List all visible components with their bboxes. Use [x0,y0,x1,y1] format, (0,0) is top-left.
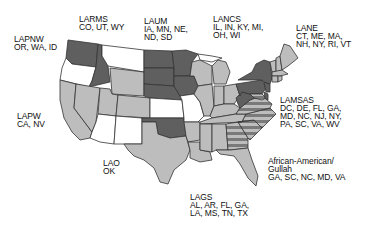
label-laum-states-2: ND, SD [144,33,188,41]
state-co [116,95,150,118]
state-wy [110,68,144,96]
state-in [214,86,224,106]
label-lags-states-2: LA, MS, TN, TX [190,209,249,217]
state-nm [114,116,142,144]
label-lapnw: LAPNW OR, WA, ID [14,35,57,51]
label-lamsas: LAMSAS DC, DE, FL, GA, MD, NC, NJ, NY, P… [280,96,342,128]
label-lane-states-2: NH, NY, RI, VT [296,40,351,48]
state-ks [150,98,184,118]
label-lao: LAO OK [103,159,120,175]
state-fl [216,148,258,186]
label-lamsas-states-3: PA, SC, VA, WV [280,120,342,128]
label-gullah-states: GA, SC, NC, MD, VA [268,173,345,181]
label-laum: LAUM IA, MN, NE, ND, SD [144,17,188,41]
state-nd [144,50,174,68]
state-mi [212,60,230,84]
label-lapw: LAPW CA, NV [17,112,45,128]
label-lapnw-states: OR, WA, ID [14,43,57,51]
label-larms-states: CO, UT, WY [79,23,124,31]
state-ct [272,76,278,82]
label-larms: LARMS CO, UT, WY [79,15,124,31]
label-lao-states: OK [103,167,120,175]
label-lags: LAGS AL, AR, FL, GA, LA, MS, TN, TX [190,193,249,217]
state-ms [200,124,212,152]
state-ri [278,76,282,82]
label-lane: LANE CT, ME, MA, NH, NY, RI, VT [296,24,351,48]
state-ny [238,60,272,84]
label-lancs: LANCS IL, IN, KY, MI, OH, WI [213,15,263,39]
state-sd [144,68,174,86]
label-gullah: African-American/ Gullah GA, SC, NC, MD,… [268,157,345,181]
label-lancs-states-2: OH, WI [213,31,263,39]
state-al [212,124,228,152]
label-lapw-states: CA, NV [17,120,45,128]
